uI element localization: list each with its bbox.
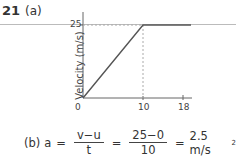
result-exponent: 2	[232, 139, 236, 147]
x-tick-18: 18	[178, 102, 189, 112]
eq-sign-3: =	[175, 136, 185, 150]
formula-denominator: t	[87, 143, 92, 158]
result-value: 2.5 m/s	[190, 129, 232, 157]
acceleration-equation: (b) a = v−u t = 25−0 10 = 2.5 m/s2	[24, 125, 236, 161]
y-tick-25: 25	[70, 19, 81, 29]
x-tick-10: 10	[138, 102, 149, 112]
eq-sign-2: =	[112, 136, 122, 150]
y-axis-label: Velocity (m/s)	[74, 31, 85, 101]
values-numerator: 25−0	[129, 128, 167, 143]
velocity-line	[83, 25, 191, 98]
part-b-label: (b)	[24, 136, 40, 150]
values-denominator: 10	[141, 143, 156, 158]
fraction-values: 25−0 10	[129, 128, 167, 158]
fraction-formula: v−u t	[74, 128, 104, 158]
eq-lhs: a	[44, 136, 51, 150]
eq-sign-1: =	[56, 136, 66, 150]
x-tick-0: 0	[75, 102, 81, 112]
formula-numerator: v−u	[74, 128, 104, 143]
